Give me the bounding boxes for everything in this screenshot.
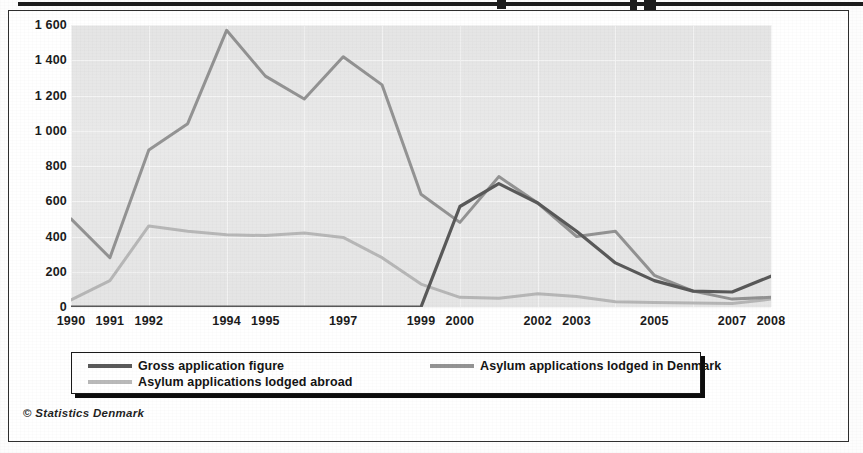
- legend-swatch-denmark: [430, 364, 474, 368]
- y-axis-tick-label: 800: [9, 159, 67, 173]
- y-axis-tick-label: 600: [9, 194, 67, 208]
- legend-swatch-abroad: [88, 380, 132, 384]
- y-axis-tick-label: 1 200: [9, 89, 67, 103]
- page-top-rule: [18, 2, 863, 6]
- y-axis-tick-label: 1 600: [9, 18, 67, 32]
- figure-frame: 02004006008001 0001 2001 4001 600 199019…: [8, 10, 849, 442]
- x-axis-tick-label: 1994: [212, 314, 241, 328]
- legend-item-gross: Gross application figure: [88, 359, 284, 373]
- y-axis-tick-label: 200: [9, 265, 67, 279]
- chart: 02004006008001 0001 2001 4001 600 199019…: [9, 11, 850, 443]
- x-axis-tick-label: 2008: [757, 314, 786, 328]
- series-line-asylum-applications-lodged-abroad: [71, 226, 771, 304]
- gridline-horizontal: [71, 307, 771, 308]
- legend: Gross application figure Asylum applicat…: [71, 352, 701, 394]
- gridline-vertical: [771, 25, 772, 307]
- x-axis-tick-label: 1999: [407, 314, 436, 328]
- page-top-rule-mark: [497, 0, 506, 9]
- source-credit: © Statistics Denmark: [23, 407, 144, 419]
- x-axis-tick-label: 2005: [640, 314, 669, 328]
- page-top-rule-mark: [630, 0, 637, 10]
- y-axis-tick-label: 1 400: [9, 53, 67, 67]
- y-axis-tick-label: 400: [9, 230, 67, 244]
- plot-area: [71, 25, 771, 307]
- series-line-asylum-applications-lodged-in-denmark: [71, 30, 771, 299]
- scanned-page: 02004006008001 0001 2001 4001 600 199019…: [0, 0, 863, 453]
- series-line-gross-application-figure: [71, 184, 771, 307]
- x-axis-tick-label: 2002: [523, 314, 552, 328]
- x-axis-tick-label: 1991: [96, 314, 125, 328]
- legend-label-abroad: Asylum applications lodged abroad: [138, 375, 352, 389]
- legend-item-denmark: Asylum applications lodged in Denmark: [430, 359, 721, 373]
- source-credit-text: Statistics Denmark: [35, 407, 144, 419]
- x-axis-tick-label: 2003: [562, 314, 591, 328]
- legend-label-gross: Gross application figure: [138, 359, 284, 373]
- y-axis: 02004006008001 0001 2001 4001 600: [9, 25, 67, 307]
- x-axis-tick-label: 2007: [718, 314, 747, 328]
- copyright-icon: ©: [23, 407, 32, 419]
- x-axis: 1990199119921994199519971999200020022003…: [71, 314, 771, 334]
- series-lines: [71, 25, 771, 307]
- legend-swatch-gross: [88, 364, 132, 368]
- legend-item-abroad: Asylum applications lodged abroad: [88, 375, 352, 389]
- x-axis-tick-label: 1992: [134, 314, 163, 328]
- legend-label-denmark: Asylum applications lodged in Denmark: [480, 359, 721, 373]
- y-axis-tick-label: 0: [9, 300, 67, 314]
- x-axis-tick-label: 1990: [57, 314, 86, 328]
- x-axis-tick-label: 1997: [329, 314, 358, 328]
- x-axis-tick-label: 2000: [446, 314, 475, 328]
- page-top-rule-mark: [644, 0, 656, 10]
- x-axis-tick-label: 1995: [251, 314, 280, 328]
- y-axis-tick-label: 1 000: [9, 124, 67, 138]
